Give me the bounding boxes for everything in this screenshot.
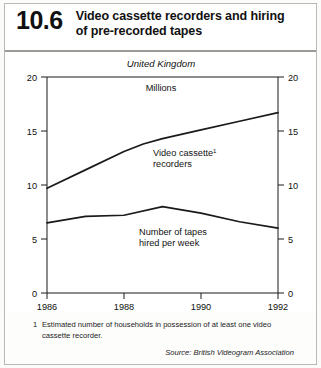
y-label-right-4: 0	[288, 289, 293, 299]
footnote: 1 Estimated number of households in poss…	[33, 320, 291, 342]
footnote-text: Estimated number of households in posses…	[42, 320, 291, 342]
region-label: United Kingdom	[127, 58, 195, 69]
series-label-tapes-hired: Number of tapes hired per week	[139, 227, 207, 248]
y-label-left-4: 0	[32, 289, 37, 299]
y-label-left-0: 20	[27, 73, 37, 83]
line-chart: United Kingdom Millions 20 15 10	[5, 53, 316, 311]
y-label-left-3: 5	[32, 235, 37, 245]
series-0-label-line-2: recorders	[153, 159, 192, 169]
y-label-left-1: 15	[27, 127, 37, 137]
units-label: Millions	[146, 83, 177, 93]
page-title: Video cassette recorders and hiring of p…	[76, 9, 285, 40]
y-label-left-2: 10	[27, 181, 37, 191]
source-attribution: Source: British Videogram Association	[165, 348, 294, 357]
chart-number: 10.6	[16, 8, 63, 33]
chart-notes: 1 Estimated number of households in poss…	[5, 312, 316, 363]
y-label-right-3: 5	[288, 235, 293, 245]
chart-page: 10.6 Video cassette recorders and hiring…	[0, 0, 321, 368]
y-label-right-2: 10	[288, 181, 298, 191]
y-label-right-0: 20	[288, 73, 298, 83]
y-label-right-1: 15	[288, 127, 298, 137]
x-label-2: 1990	[191, 302, 211, 311]
title-line-1: Video cassette recorders and hiring	[76, 9, 285, 24]
x-label-3: 1992	[268, 302, 288, 311]
x-label-1: 1988	[114, 302, 134, 311]
footnote-marker: 1	[33, 320, 37, 331]
series-1-label-line-2: hired per week	[139, 238, 200, 248]
series-0-label-line-1: Video cassette1	[153, 148, 217, 159]
chart-plot-area: United Kingdom Millions 20 15 10	[5, 53, 316, 311]
x-label-0: 1986	[37, 302, 57, 311]
title-line-2: of pre-recorded tapes	[76, 24, 285, 39]
series-1-label-line-1: Number of tapes	[139, 227, 207, 237]
chart-header: 10.6 Video cassette recorders and hiring…	[5, 4, 316, 50]
header-divider	[5, 50, 316, 52]
